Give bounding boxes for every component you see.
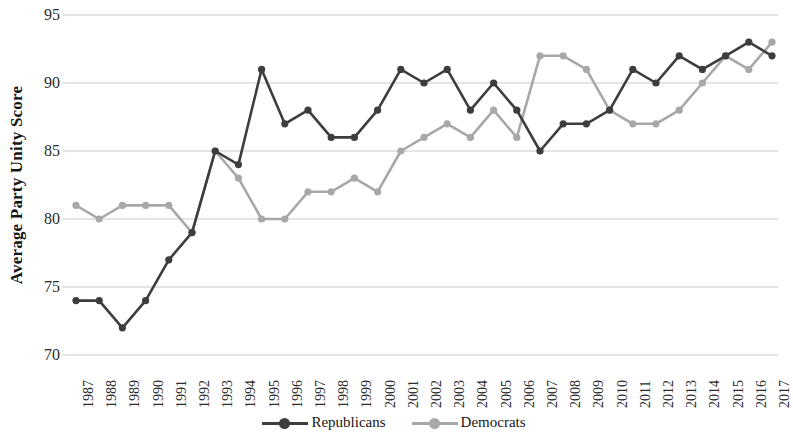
point-democrats-1991 <box>165 202 172 209</box>
point-republicans-1997 <box>304 107 311 114</box>
x-tick-2014: 2014 <box>707 358 723 408</box>
point-democrats-2013 <box>676 107 683 114</box>
plot-area <box>62 0 780 356</box>
x-tick-2010: 2010 <box>615 358 631 408</box>
x-tick-2008: 2008 <box>568 358 584 408</box>
point-republicans-2004 <box>467 107 474 114</box>
x-tick-2015: 2015 <box>731 358 747 408</box>
point-democrats-2016 <box>745 66 752 73</box>
point-republicans-2003 <box>444 66 451 73</box>
x-tick-1989: 1989 <box>127 358 143 408</box>
legend-swatch-republicans <box>262 416 308 430</box>
x-tick-1999: 1999 <box>359 358 375 408</box>
plot-svg <box>62 0 780 356</box>
legend-label-democrats: Democrats <box>461 414 526 431</box>
y-tick-70: 70 <box>20 346 60 364</box>
y-tick-90: 90 <box>20 74 60 92</box>
y-tick-95: 95 <box>20 6 60 24</box>
point-republicans-2000 <box>374 107 381 114</box>
point-republicans-2013 <box>676 52 683 59</box>
point-republicans-2011 <box>629 66 636 73</box>
point-democrats-2005 <box>490 107 497 114</box>
point-republicans-2006 <box>513 107 520 114</box>
legend-item-republicans: Republicans <box>262 414 385 431</box>
point-democrats-2017 <box>768 39 775 46</box>
point-democrats-1995 <box>258 215 265 222</box>
x-tick-1998: 1998 <box>336 358 352 408</box>
point-republicans-1992 <box>188 229 195 236</box>
point-democrats-1999 <box>351 175 358 182</box>
x-tick-2002: 2002 <box>429 358 445 408</box>
point-republicans-2009 <box>583 120 590 127</box>
point-republicans-2012 <box>652 79 659 86</box>
point-republicans-2008 <box>560 120 567 127</box>
point-republicans-2007 <box>536 147 543 154</box>
x-tick-2000: 2000 <box>383 358 399 408</box>
x-tick-2017: 2017 <box>777 358 793 408</box>
point-republicans-1999 <box>351 134 358 141</box>
point-democrats-1997 <box>304 188 311 195</box>
x-tick-2012: 2012 <box>661 358 677 408</box>
point-republicans-1998 <box>328 134 335 141</box>
point-democrats-1998 <box>328 188 335 195</box>
x-tick-2011: 2011 <box>638 358 654 408</box>
y-axis-tick-labels: 959085807570 <box>16 0 60 370</box>
point-republicans-1989 <box>119 324 126 331</box>
point-republicans-2005 <box>490 79 497 86</box>
point-democrats-2004 <box>467 134 474 141</box>
point-republicans-1993 <box>212 147 219 154</box>
x-tick-2003: 2003 <box>452 358 468 408</box>
legend-label-republicans: Republicans <box>311 414 385 431</box>
point-democrats-2000 <box>374 188 381 195</box>
point-republicans-2016 <box>745 39 752 46</box>
legend-item-democrats: Democrats <box>412 414 526 431</box>
x-tick-2013: 2013 <box>684 358 700 408</box>
x-tick-1996: 1996 <box>290 358 306 408</box>
y-tick-80: 80 <box>20 210 60 228</box>
point-democrats-2002 <box>420 134 427 141</box>
point-republicans-2014 <box>699 66 706 73</box>
x-tick-1997: 1997 <box>313 358 329 408</box>
point-democrats-2001 <box>397 147 404 154</box>
point-democrats-2003 <box>444 120 451 127</box>
x-tick-1990: 1990 <box>151 358 167 408</box>
point-republicans-1988 <box>96 297 103 304</box>
point-republicans-1991 <box>165 256 172 263</box>
point-republicans-1996 <box>281 120 288 127</box>
x-tick-2009: 2009 <box>591 358 607 408</box>
x-tick-2006: 2006 <box>522 358 538 408</box>
point-republicans-2015 <box>722 52 729 59</box>
point-democrats-1996 <box>281 215 288 222</box>
x-tick-1991: 1991 <box>174 358 190 408</box>
point-democrats-2008 <box>560 52 567 59</box>
x-tick-1993: 1993 <box>220 358 236 408</box>
point-democrats-1994 <box>235 175 242 182</box>
point-republicans-2017 <box>768 52 775 59</box>
point-democrats-1987 <box>72 202 79 209</box>
x-axis-tick-labels: 1987198819891990199119921993199419951996… <box>62 358 780 410</box>
x-tick-1987: 1987 <box>81 358 97 408</box>
point-democrats-1989 <box>119 202 126 209</box>
x-tick-1994: 1994 <box>243 358 259 408</box>
point-democrats-2006 <box>513 134 520 141</box>
y-tick-75: 75 <box>20 278 60 296</box>
point-republicans-1987 <box>72 297 79 304</box>
x-tick-2004: 2004 <box>475 358 491 408</box>
y-tick-85: 85 <box>20 142 60 160</box>
point-republicans-2010 <box>606 107 613 114</box>
point-republicans-2002 <box>420 79 427 86</box>
chart-legend: Republicans Democrats <box>0 414 788 431</box>
x-tick-2005: 2005 <box>499 358 515 408</box>
point-republicans-1990 <box>142 297 149 304</box>
x-tick-2016: 2016 <box>754 358 770 408</box>
point-democrats-1990 <box>142 202 149 209</box>
x-tick-2001: 2001 <box>406 358 422 408</box>
point-republicans-2001 <box>397 66 404 73</box>
point-democrats-2009 <box>583 66 590 73</box>
legend-swatch-democrats <box>412 416 458 430</box>
point-democrats-2011 <box>629 120 636 127</box>
point-democrats-2012 <box>652 120 659 127</box>
x-tick-1995: 1995 <box>267 358 283 408</box>
point-democrats-1988 <box>96 215 103 222</box>
